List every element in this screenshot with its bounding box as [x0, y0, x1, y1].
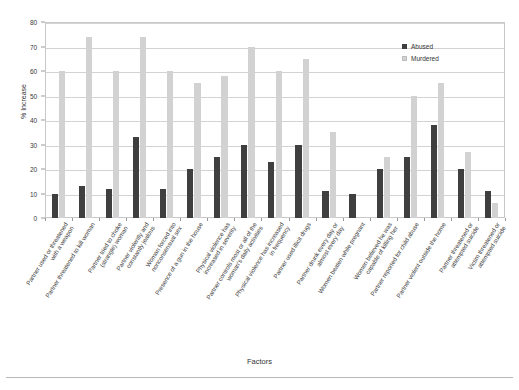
- bar-murdered: [303, 59, 309, 218]
- bar-abused: [187, 169, 193, 218]
- bar-abused: [268, 162, 274, 218]
- y-tick-label: 10: [30, 190, 37, 197]
- bar-abused: [214, 157, 220, 218]
- y-tick-label: 70: [30, 43, 37, 50]
- bar-murdered: [113, 71, 119, 218]
- bar-murdered: [59, 71, 65, 218]
- bar-murdered: [411, 96, 417, 219]
- bar-abused: [404, 157, 410, 218]
- chart-legend: Abused Murdered: [402, 43, 439, 67]
- legend-swatch-murdered: [402, 56, 407, 61]
- bar-abused: [160, 189, 166, 218]
- bar-abused: [106, 189, 112, 218]
- bar-abused: [52, 194, 58, 219]
- bar-murdered: [167, 71, 173, 218]
- bar-abused: [241, 145, 247, 219]
- y-tick-label: 30: [30, 141, 37, 148]
- y-tick-label: 50: [30, 92, 37, 99]
- bar-abused: [485, 191, 491, 218]
- y-tick-label: 0: [33, 215, 37, 222]
- bar-murdered: [384, 157, 390, 218]
- y-tick-label: 20: [30, 166, 37, 173]
- bar-abused: [79, 186, 85, 218]
- bar-murdered: [465, 152, 471, 218]
- bar-abused: [133, 137, 139, 218]
- bar-abused: [322, 191, 328, 218]
- bar-abused: [349, 194, 355, 219]
- legend-label-murdered: Murdered: [411, 55, 439, 62]
- bar-abused: [431, 125, 437, 218]
- bar-murdered: [276, 71, 282, 218]
- bar-murdered: [221, 76, 227, 218]
- footer-divider: [6, 377, 513, 378]
- bar-murdered: [492, 203, 498, 218]
- y-tick-label: 60: [30, 68, 37, 75]
- bar-murdered: [194, 83, 200, 218]
- x-tick-mark: [505, 218, 506, 221]
- bar-murdered: [248, 47, 254, 219]
- legend-swatch-abused: [402, 44, 407, 49]
- x-axis-title: Factors: [0, 357, 519, 366]
- y-axis-title: % Increase: [20, 57, 27, 147]
- bar-murdered: [438, 83, 444, 218]
- bar-abused: [377, 169, 383, 218]
- legend-label-abused: Abused: [411, 43, 433, 50]
- legend-item-murdered: Murdered: [402, 55, 439, 62]
- bar-abused: [458, 169, 464, 218]
- y-tick-label: 40: [30, 117, 37, 124]
- x-axis-tick-labels: Partner used or threatened with a weapon…: [45, 221, 505, 351]
- bar-murdered: [330, 132, 336, 218]
- bar-murdered: [86, 37, 92, 218]
- bar-abused: [295, 145, 301, 219]
- legend-item-abused: Abused: [402, 43, 439, 50]
- chart-figure: 01020304050607080 % Increase Partner use…: [0, 0, 519, 390]
- y-tick-label: 80: [30, 19, 37, 26]
- bar-murdered: [140, 37, 146, 218]
